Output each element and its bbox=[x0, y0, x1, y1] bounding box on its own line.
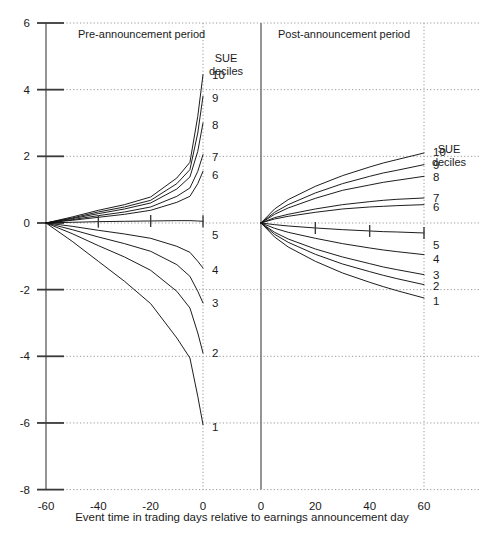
series-line-post-announcement-decile-9 bbox=[261, 165, 424, 223]
series-line-pre-announcement-decile-6 bbox=[46, 171, 203, 223]
x-axis-label-post-announcement-60: 60 bbox=[418, 500, 431, 512]
y-axis-label--8: -8 bbox=[20, 484, 30, 496]
y-axis-label--6: -6 bbox=[20, 417, 30, 429]
y-axis-label-0: 0 bbox=[24, 217, 30, 229]
x-axis-label-pre-announcement--40: -40 bbox=[90, 500, 107, 512]
legend-label-post-decile-10: 10 bbox=[433, 146, 446, 158]
series-line-pre-announcement-decile-7 bbox=[46, 155, 203, 223]
series-line-post-announcement-decile-3 bbox=[261, 223, 424, 275]
legend-label-pre-decile-4: 4 bbox=[212, 264, 219, 276]
panel-title-post-announcement: Post-announcement period bbox=[278, 28, 410, 40]
series-line-pre-announcement-decile-8 bbox=[46, 123, 203, 223]
series-line-pre-announcement-decile-9 bbox=[46, 96, 203, 223]
legend-label-post-decile-1: 1 bbox=[433, 295, 439, 307]
x-axis-label-pre-announcement-0: 0 bbox=[200, 500, 206, 512]
x-axis-label-post-announcement-0: 0 bbox=[258, 500, 264, 512]
legend-label-pre-decile-2: 2 bbox=[212, 347, 218, 359]
legend-label-post-decile-6: 6 bbox=[433, 201, 439, 213]
legend-label-pre-decile-8: 8 bbox=[212, 119, 218, 131]
legend-label-post-decile-8: 8 bbox=[433, 171, 439, 183]
legend-label-pre-decile-5: 5 bbox=[212, 229, 218, 241]
legend-label-pre-decile-3: 3 bbox=[212, 297, 218, 309]
x-axis-caption: Event time in trading days relative to e… bbox=[75, 511, 409, 523]
series-line-pre-announcement-decile-2 bbox=[46, 223, 203, 353]
panel-title-pre-announcement: Pre-announcement period bbox=[78, 28, 205, 40]
y-axis-label-6: 6 bbox=[24, 17, 30, 29]
legend-label-post-decile-4: 4 bbox=[433, 253, 440, 265]
legend-label-pre-decile-10: 10 bbox=[212, 69, 225, 81]
x-axis-label-pre-announcement--60: -60 bbox=[38, 500, 55, 512]
y-axis-label-4: 4 bbox=[24, 84, 31, 96]
series-line-post-announcement-decile-1 bbox=[261, 223, 424, 298]
legend-title-pre-line1: SUE bbox=[215, 52, 238, 64]
series-line-post-announcement-decile-10 bbox=[261, 153, 424, 223]
series-line-post-announcement-decile-4 bbox=[261, 223, 424, 255]
y-axis-label--4: -4 bbox=[20, 350, 31, 362]
legend-label-post-decile-2: 2 bbox=[433, 280, 439, 292]
legend-label-pre-decile-6: 6 bbox=[212, 169, 218, 181]
series-line-pre-announcement-decile-1 bbox=[46, 223, 203, 425]
y-axis-label--2: -2 bbox=[20, 284, 30, 296]
legend-label-pre-decile-9: 9 bbox=[212, 92, 218, 104]
series-line-post-announcement-decile-6 bbox=[261, 205, 424, 223]
x-axis-label-post-announcement-20: 20 bbox=[309, 500, 322, 512]
legend-label-pre-decile-1: 1 bbox=[212, 421, 218, 433]
series-line-pre-announcement-decile-4 bbox=[46, 223, 203, 268]
y-axis-label-2: 2 bbox=[24, 150, 30, 162]
legend-label-post-decile-9: 9 bbox=[433, 159, 439, 171]
legend-label-post-decile-5: 5 bbox=[433, 239, 439, 251]
x-axis-label-pre-announcement--20: -20 bbox=[142, 500, 159, 512]
x-axis-label-post-announcement-40: 40 bbox=[363, 500, 376, 512]
legend-label-pre-decile-7: 7 bbox=[212, 151, 218, 163]
sue-deciles-cumulative-abnormal-return-chart: 6420-2-4-6-8-60-40-2000204060Pre-announc… bbox=[0, 0, 485, 533]
series-line-pre-announcement-decile-3 bbox=[46, 223, 203, 303]
chart-figure: 6420-2-4-6-8-60-40-2000204060Pre-announc… bbox=[0, 0, 485, 533]
